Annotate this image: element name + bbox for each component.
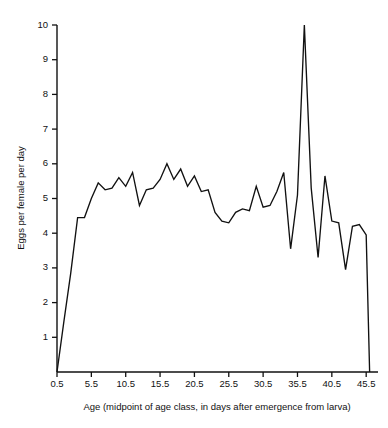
y-tick-label-4: 4 [43,227,48,238]
x-tick-label-5.5: 5.5 [85,378,98,389]
x-axis-title: Age (midpoint of age class, in days afte… [83,401,350,412]
y-tick-label-1: 1 [43,331,48,342]
y-tick-label-2: 2 [43,296,48,307]
y-axis-title: Eggs per female per day [15,146,26,250]
y-tick-label-9: 9 [43,53,48,64]
y-tick-label-7: 7 [43,123,48,134]
y-tick-label-6: 6 [43,157,48,168]
x-tick-label-20.5: 20.5 [185,378,204,389]
x-tick-label-25.5: 25.5 [220,378,239,389]
x-tick-label-15.5: 15.5 [151,378,170,389]
chart-svg: 12345678910 0.55.510.515.520.525.530.535… [0,0,388,428]
y-tick-label-8: 8 [43,88,48,99]
x-tick-label-10.5: 10.5 [116,378,135,389]
y-tick-label-10: 10 [37,19,48,30]
y-tick-label-5: 5 [43,192,48,203]
x-tick-label-40.5: 40.5 [323,378,342,389]
x-tick-label-0.5: 0.5 [50,378,63,389]
x-tick-label-35.5: 35.5 [288,378,307,389]
x-tick-label-45.5: 45.5 [357,378,376,389]
chart-figure: 12345678910 0.55.510.515.520.525.530.535… [0,0,388,428]
x-tick-label-30.5: 30.5 [254,378,273,389]
y-tick-label-3: 3 [43,261,48,272]
